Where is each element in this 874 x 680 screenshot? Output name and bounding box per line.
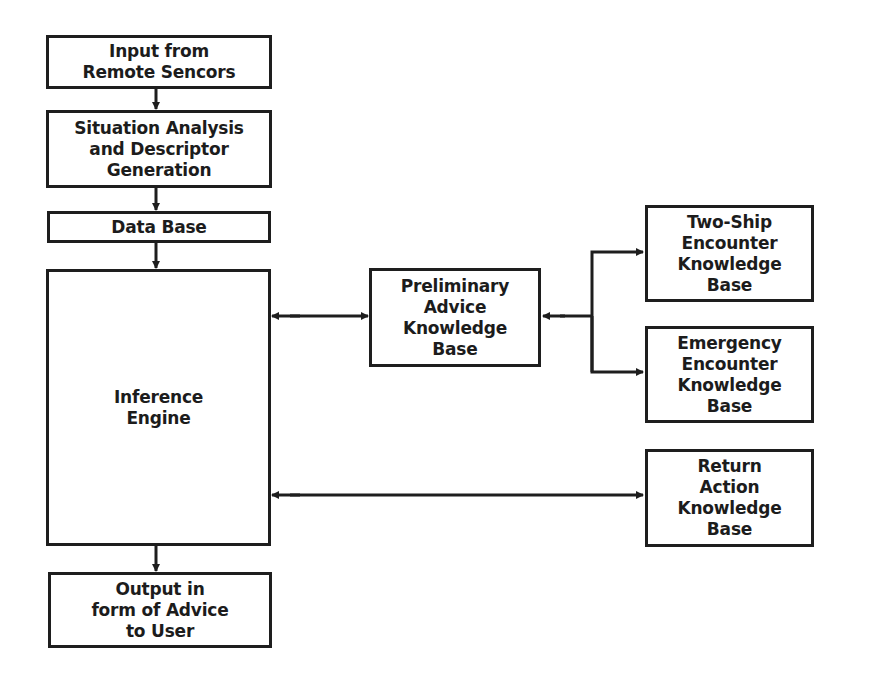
- node-two-ship-encounter-kb: Two-Ship Encounter Knowledge Base: [645, 205, 814, 302]
- node-output-advice: Output in form of Advice to User: [48, 572, 272, 648]
- node-label: Two-Ship Encounter Knowledge Base: [677, 212, 781, 296]
- node-inference-engine: Inference Engine: [46, 269, 271, 546]
- node-data-base: Data Base: [47, 211, 271, 243]
- node-situation-analysis: Situation Analysis and Descriptor Genera…: [46, 110, 272, 188]
- node-return-action-kb: Return Action Knowledge Base: [645, 449, 814, 547]
- arrow-to-twoship: [592, 252, 643, 372]
- arrow-to-emergency: [592, 316, 643, 372]
- expert-system-flow-diagram: Input from Remote Sencors Situation Anal…: [0, 0, 874, 680]
- node-label: Return Action Knowledge Base: [677, 456, 781, 540]
- node-label: Preliminary Advice Knowledge Base: [401, 276, 509, 360]
- node-label: Data Base: [111, 217, 206, 238]
- node-label: Situation Analysis and Descriptor Genera…: [74, 118, 244, 181]
- node-label: Input from Remote Sencors: [83, 41, 236, 83]
- node-preliminary-advice-kb: Preliminary Advice Knowledge Base: [369, 268, 541, 367]
- node-label: Emergency Encounter Knowledge Base: [677, 333, 781, 417]
- node-input-from-remote-sensors: Input from Remote Sencors: [46, 35, 272, 89]
- node-label: Output in form of Advice to User: [91, 579, 228, 642]
- node-label: Inference Engine: [114, 387, 203, 429]
- node-emergency-encounter-kb: Emergency Encounter Knowledge Base: [645, 326, 814, 423]
